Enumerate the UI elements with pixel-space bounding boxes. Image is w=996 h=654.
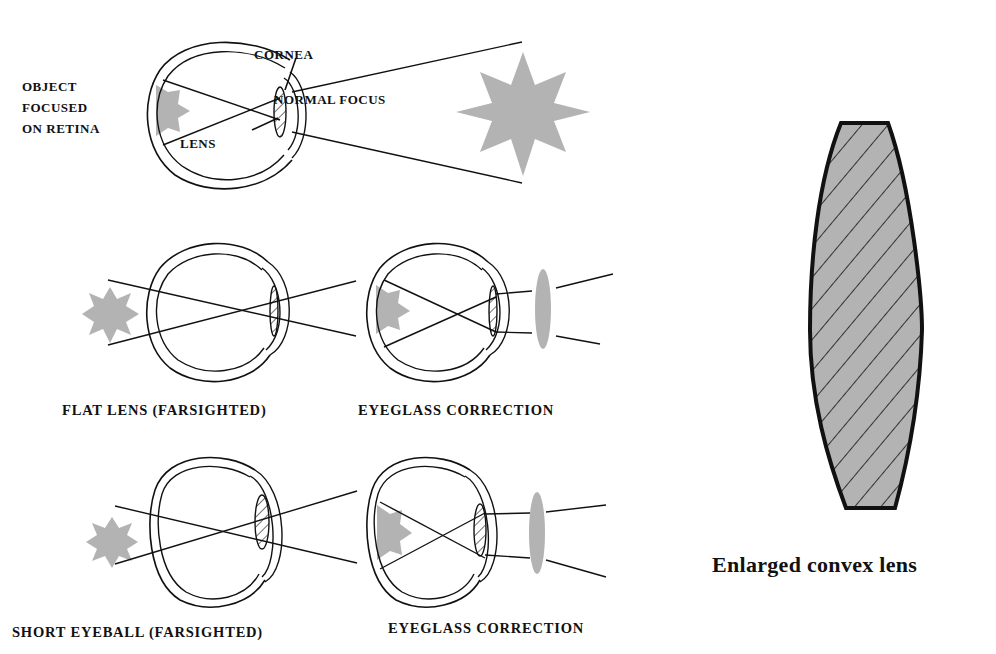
flat-lens-eye	[82, 243, 356, 381]
retina-image-star	[376, 285, 410, 334]
object-label-line-1: OBJECT	[22, 76, 100, 97]
short-eyeball-caption: SHORT EYEBALL (FARSIGHTED)	[12, 622, 263, 643]
flat-lens-correction-eye	[367, 243, 613, 381]
object-label-line-3: ON RETINA	[22, 118, 100, 139]
object-star	[82, 287, 139, 343]
object-star	[456, 52, 590, 176]
object-star	[86, 517, 138, 568]
eyeglass-lens	[535, 269, 551, 349]
short-eyeball-correction-eye	[367, 457, 606, 607]
flat-lens-caption: FLAT LENS (FARSIGHTED)	[62, 400, 267, 421]
convex-lens-caption: Enlarged convex lens	[712, 554, 917, 575]
normal-eye	[147, 42, 590, 189]
cornea-label: CORNEA	[254, 44, 313, 65]
short-eyeball-eye	[86, 457, 357, 607]
object-focused-label: OBJECT FOCUSED ON RETINA	[22, 76, 100, 139]
normal-focus-label: NORMAL FOCUS	[274, 89, 386, 110]
lens-label: LENS	[180, 133, 216, 154]
retina-image-star	[156, 85, 190, 136]
short-eyeball-correction-caption: EYEGLASS CORRECTION	[388, 618, 584, 639]
object-label-line-2: FOCUSED	[22, 97, 100, 118]
eyeglass-lens	[529, 492, 545, 574]
flat-lens-correction-caption: EYEGLASS CORRECTION	[358, 400, 554, 421]
retina-image-star	[377, 505, 412, 560]
enlarged-convex-lens	[810, 123, 922, 508]
